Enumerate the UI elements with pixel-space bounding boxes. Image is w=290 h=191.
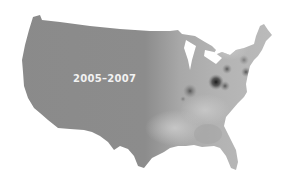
- map-fill: [0, 0, 290, 191]
- period-label: 2005–2007: [73, 73, 136, 84]
- us-heat-map: 2005–2007: [0, 0, 290, 191]
- us-map-svg: [0, 0, 290, 191]
